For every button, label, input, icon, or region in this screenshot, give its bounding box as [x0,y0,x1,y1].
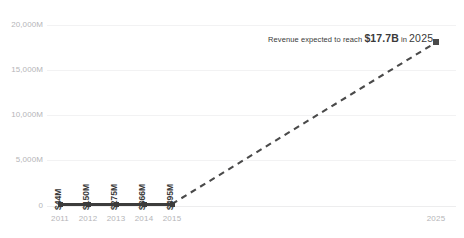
point-label-2011: $44M [54,189,63,210]
y-tick-label-10000: 10,000M [0,110,43,120]
point-label-2012: $150M [82,184,91,210]
annotation-value: $17.7B [364,32,398,44]
y-tick-label-5000: 5,000M [0,155,43,165]
plot-area: 20,000M 15,000M 10,000M 5,000M 0 $44M $1… [0,0,464,238]
annotation-prefix: Revenue expected to reach [268,35,364,44]
point-label-2015: $495M [166,184,175,210]
x-tick-label-2013: 2013 [101,214,131,224]
projection-dashed-line [172,43,435,204]
x-tick-label-2011: 2011 [45,214,75,224]
x-tick-label-2012: 2012 [73,214,103,224]
gridline-15000 [47,70,456,71]
data-point-2025-projected [433,39,439,45]
revenue-projection-chart: 20,000M 15,000M 10,000M 5,000M 0 $44M $1… [0,0,464,238]
projection-annotation: Revenue expected to reach $17.7B in 2025 [268,31,433,46]
gridline-5000 [47,160,456,161]
gridline-10000 [47,115,456,116]
point-label-2013: $275M [110,184,119,210]
y-tick-label-0: 0 [0,201,43,211]
annotation-year: 2025 [409,32,434,44]
annotation-infix: in [399,35,409,44]
x-tick-label-2015: 2015 [157,214,187,224]
y-tick-label-15000: 15,000M [0,65,43,75]
gridline-20000 [47,25,456,26]
point-label-2014: $366M [138,184,147,210]
x-tick-label-2014: 2014 [129,214,159,224]
x-tick-label-2025: 2025 [421,214,451,224]
y-tick-label-20000: 20,000M [0,20,43,30]
